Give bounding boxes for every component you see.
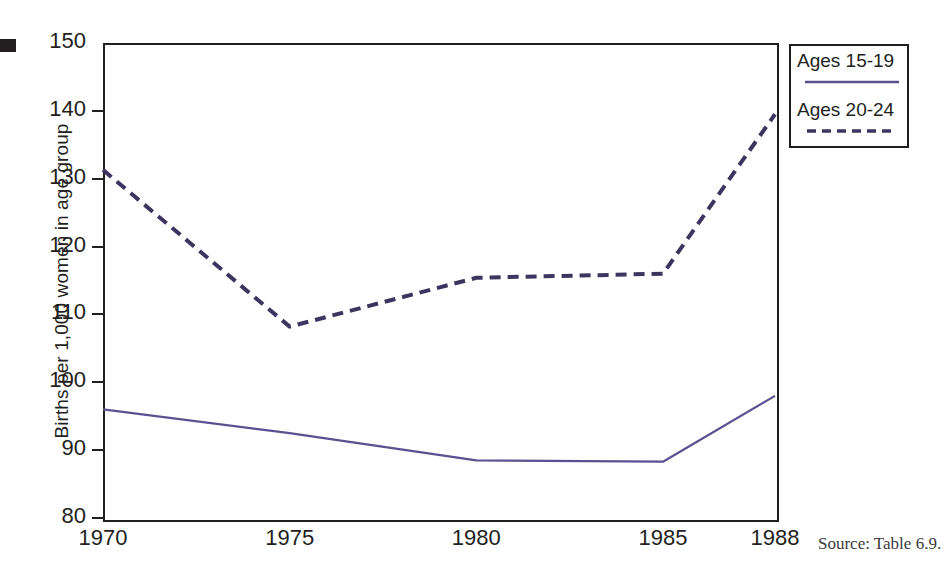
y-tick-label-130: 130 [24,166,86,188]
y-axis-title: Births per 1,000 women in age group [51,71,73,491]
legend-swatch-solid-line [805,79,899,83]
y-tick-label-wrap-90: 90 [20,437,86,459]
y-tick-label-100: 100 [24,369,86,391]
y-tick-mark-90 [92,449,103,451]
legend-entry-ages-15-19: Ages 15-19 [797,51,907,100]
source-note: Source: Table 6.9. [818,534,941,554]
y-tick-mark-130 [92,178,103,180]
y-tick-label-wrap-120: 120 [20,234,86,256]
x-tick-label-1985: 1985 [603,527,723,549]
legend-label-ages-20-24: Ages 20-24 [797,100,907,120]
y-tick-mark-110 [92,313,103,315]
y-tick-label-wrap-100: 100 [20,369,86,391]
plot-area-frame [103,43,779,522]
y-tick-label-140: 140 [24,98,86,120]
y-tick-label-wrap-150: 150 [20,30,86,52]
y-tick-label-90: 90 [24,437,86,459]
y-tick-label-150: 150 [24,30,86,52]
y-tick-label-wrap-110: 110 [20,301,86,323]
x-tick-label-1988: 1988 [715,527,835,549]
y-tick-label-120: 120 [24,234,86,256]
y-tick-mark-80 [92,517,103,519]
x-tick-label-1970: 1970 [43,527,163,549]
y-tick-mark-120 [92,246,103,248]
x-tick-label-1980: 1980 [416,527,536,549]
legend-box: Ages 15-19 Ages 20-24 [789,44,909,148]
y-tick-label-wrap-140: 140 [20,98,86,120]
y-tick-mark-100 [92,381,103,383]
line-chart-figure: Births per 1,000 women in age group 8090… [0,0,945,587]
y-tick-label-110: 110 [24,301,86,323]
legend-entry-ages-20-24: Ages 20-24 [797,100,907,149]
x-tick-label-1975: 1975 [230,527,350,549]
y-tick-label-wrap-80: 80 [20,505,86,527]
y-tick-label-wrap-130: 130 [20,166,86,188]
y-tick-mark-140 [92,110,103,112]
legend-label-ages-15-19: Ages 15-19 [797,51,907,71]
legend-swatch-dashed-line [805,128,899,132]
y-tick-label-80: 80 [24,505,86,527]
